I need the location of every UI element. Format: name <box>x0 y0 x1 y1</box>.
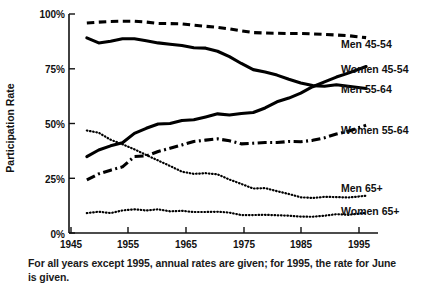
x-tick-label-1955: 1955 <box>117 239 140 250</box>
series-label-women-55-64: Women 55-64 <box>341 124 409 136</box>
series-label-women-65plus: Women 65+ <box>341 205 399 217</box>
x-axis-ticks <box>71 227 359 233</box>
y-axis-ticks <box>69 14 75 233</box>
y-tick-label-50: 50% <box>45 119 65 130</box>
series-label-men-65plus: Men 65+ <box>341 182 383 194</box>
x-axis-tick-labels: 1945 1955 1965 1975 1985 1995 <box>60 239 371 250</box>
series-line-men-45-54 <box>87 21 366 37</box>
series-line-women-65 <box>87 209 366 216</box>
y-axis-title: Participation Rate <box>4 83 16 172</box>
y-tick-label-100: 100% <box>39 9 65 20</box>
y-tick-label-25: 25% <box>45 174 65 185</box>
series-label-men-45-54: Men 45-54 <box>341 38 392 50</box>
series-label-women-45-54: Women 45-54 <box>341 63 409 75</box>
series-line-women-55-64 <box>87 125 366 180</box>
participation-rate-line-chart: Participation Rate 100% 75% 50% 25% 0% <box>0 0 422 296</box>
x-tick-label-1945: 1945 <box>60 239 83 250</box>
series-line-women-45-54 <box>87 67 366 157</box>
series-label-men-55-64: Men 55-64 <box>341 83 392 95</box>
series-labels: Men 45-54 Women 45-54 Men 55-64 Women 55… <box>341 38 409 217</box>
y-axis-tick-labels: 100% 75% 50% 25% 0% <box>39 9 65 240</box>
figure-caption: For all years except 1995, annual rates … <box>28 256 398 284</box>
x-tick-label-1975: 1975 <box>233 239 256 250</box>
series-layer <box>87 21 366 217</box>
x-tick-label-1995: 1995 <box>348 239 371 250</box>
y-tick-label-75: 75% <box>45 64 65 75</box>
x-tick-label-1965: 1965 <box>175 239 198 250</box>
figure-container: Participation Rate 100% 75% 50% 25% 0% <box>0 0 422 296</box>
x-tick-label-1985: 1985 <box>290 239 313 250</box>
